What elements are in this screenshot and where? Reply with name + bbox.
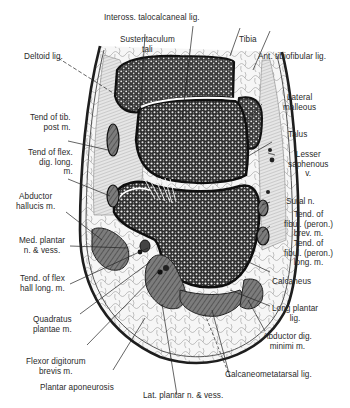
talus-bone xyxy=(136,100,248,183)
label-abductor-hallucis: Abductor hallucis m. xyxy=(16,192,55,211)
label-talus: Talus xyxy=(288,130,307,140)
label-tend-tib-post: Tend of tib. post m. xyxy=(30,113,71,132)
tend-tib-post xyxy=(107,124,119,156)
tend-fibul-long xyxy=(257,227,269,245)
abductor-digiti-minimi-muscle xyxy=(240,279,263,309)
label-flexor-digitorum-brevis: Flexor digitorum brevis m. xyxy=(26,357,86,376)
label-tibia: Tibia xyxy=(239,35,257,45)
label-med-plantar-n-vess: Med. plantar n. & vess. xyxy=(19,236,65,255)
label-sustentaculum-tali: Sustentaculum tali xyxy=(120,35,175,54)
label-lateral-malleous: Lateral malleous xyxy=(283,93,316,112)
label-inteross-talocalcaneal-lig: Inteross. talocalcaneal lig. xyxy=(104,13,200,23)
label-calcaneometatarsal-lig: Calcaneometatarsal lig. xyxy=(225,370,312,380)
label-tend-flex-dig-long: Tend of flex. dig. long. m. xyxy=(28,148,73,177)
label-tend-fibul-brev: Tend. of fibul. (peron.) brev. m. xyxy=(284,210,333,239)
label-plantar-aponeurosis: Plantar aponeurosis xyxy=(40,383,114,393)
label-deltoid-lig: Deltoid lig. xyxy=(24,52,63,62)
tend-flex-dig-long xyxy=(107,185,119,207)
label-long-plantar-lig: Long plantar lig. xyxy=(272,304,318,323)
label-quadratus-plantae: Quadratus plantae m. xyxy=(33,315,72,334)
label-calcaneus: Calcaneus xyxy=(272,277,311,287)
label-ant-tibiofibular-lig: Ant. tibiofibular lig. xyxy=(258,52,326,62)
label-lesser-saphenous-v: Lesser saphenous v. xyxy=(288,150,329,179)
label-lat-plantar-n-vess: Lat. plantar n. & vess. xyxy=(143,391,223,401)
tend-fibul-brev xyxy=(258,200,268,216)
label-abductor-dig-minimi: Abductor dig. minimi m. xyxy=(263,332,312,351)
label-tend-fibul-long: Tend. of fibul. (peron.) long. m. xyxy=(284,239,333,268)
label-tend-flex-hall-long: Tend. of flex hall long. m. xyxy=(20,274,65,293)
label-sural-n: Sural n. xyxy=(286,197,315,207)
